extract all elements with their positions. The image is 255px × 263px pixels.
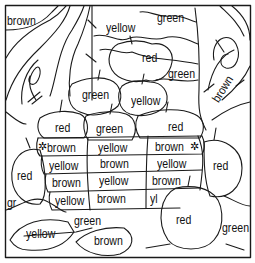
label-apple-row-left: red — [55, 122, 70, 134]
label-basket-r3c1: brown — [52, 177, 81, 189]
label-apple-top: red — [142, 52, 157, 64]
label-basket-r4c2: brown — [97, 193, 126, 205]
label-basket-r1c1: brown — [47, 142, 76, 154]
label-apple-row-right: red — [168, 121, 183, 133]
label-leaves-right: green — [168, 68, 195, 80]
label-apple-yellow: yellow — [131, 95, 160, 107]
label-basket-r2c2: brown — [100, 158, 129, 170]
label-grass-left: gr — [7, 197, 16, 209]
bug-icon-right: ✲ — [190, 141, 199, 152]
label-apple-green: green — [82, 89, 109, 101]
label-leaf-stem: green — [74, 215, 101, 227]
label-tree-left: brown — [7, 15, 36, 27]
label-grass-right: green — [222, 222, 249, 234]
coloring-page-artwork — [0, 0, 255, 263]
label-leaves-top: yellow — [106, 22, 135, 34]
bug-icon-left: ✲ — [38, 141, 47, 152]
label-apple-bottom: red — [176, 214, 191, 226]
label-basket-r1c2: yellow — [98, 142, 127, 154]
label-basket-r3c2: yellow — [99, 175, 128, 187]
label-basket-r2c3: yellow — [157, 158, 186, 170]
label-leaf-right: brown — [94, 235, 123, 247]
label-basket-r3c3: brown — [152, 175, 181, 187]
label-apple-row-mid: green — [96, 123, 123, 135]
label-leaf-left: yellow — [26, 228, 55, 240]
label-apple-right: red — [213, 160, 228, 172]
leaves-bottom — [6, 196, 250, 256]
label-apple-left: red — [17, 170, 32, 182]
tree-trunk-right — [195, 6, 250, 130]
label-leaves-top-right: green — [157, 12, 184, 24]
label-basket-r4c1: yellow — [55, 195, 84, 207]
label-basket-r4c3: yl — [150, 193, 158, 205]
label-basket-r2c1: yellow — [49, 160, 78, 172]
label-basket-r1c3: brown — [155, 141, 184, 153]
